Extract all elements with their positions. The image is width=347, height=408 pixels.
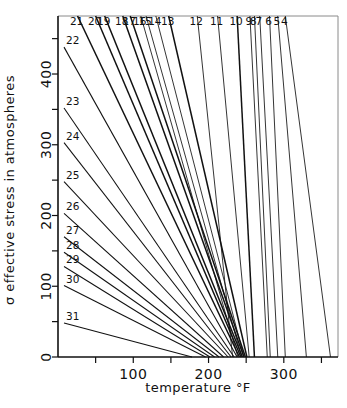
x-tick-label: 300 [270, 366, 298, 382]
y-axis-tick-labels: 0100200300400 [38, 60, 54, 362]
curve-19 [105, 16, 243, 357]
x-axis-ticks [96, 357, 322, 363]
curve-label-22: 22 [66, 34, 79, 46]
curve-29 [64, 266, 210, 357]
curve-label-4: 4 [281, 15, 288, 27]
curve-label-11: 11 [210, 15, 223, 27]
y-tick-label: 300 [38, 131, 54, 159]
curve-label-23: 23 [66, 95, 79, 107]
curve-label-29: 29 [66, 253, 79, 265]
y-tick-label: 0 [38, 352, 54, 361]
curve-label-7: 7 [255, 15, 262, 27]
curve-label-28: 28 [66, 239, 79, 251]
x-axis-title: temperature °F [145, 380, 250, 395]
curve-label-12: 12 [190, 15, 203, 27]
plot-frame [58, 16, 338, 357]
curve-10 [237, 16, 254, 357]
curve-label-6: 6 [265, 15, 272, 27]
curve-group [64, 16, 330, 357]
y-tick-label: 400 [38, 60, 54, 88]
curve-label-25: 25 [66, 169, 79, 181]
chart-figure: 100200300 0100200300400 3130292827262524… [0, 0, 347, 408]
curve-6 [270, 16, 286, 357]
curve-label-10: 10 [229, 15, 242, 27]
curve-label-14: 14 [148, 15, 162, 27]
curve-16 [141, 16, 238, 357]
curve-28 [64, 252, 215, 357]
curve-label-31: 31 [66, 310, 79, 322]
curve-label-19: 19 [97, 15, 110, 27]
effective-stress-temperature-plot: 100200300 0100200300400 3130292827262524… [0, 0, 347, 408]
x-tick-label: 100 [119, 366, 147, 382]
y-axis-title: σ effective stress in atmospheres [2, 75, 17, 305]
y-tick-label: 100 [38, 272, 54, 300]
curve-label-26: 26 [66, 200, 80, 212]
curve-17 [130, 16, 245, 357]
curve-label-27: 27 [66, 224, 79, 236]
curve-label-13: 13 [161, 15, 174, 27]
curve-label-30: 30 [66, 273, 79, 285]
curve-label-24: 24 [66, 130, 80, 142]
curve-label-5: 5 [273, 15, 280, 27]
curve-26 [64, 213, 224, 357]
curve-label-21: 21 [70, 15, 83, 27]
y-tick-label: 200 [38, 201, 54, 229]
